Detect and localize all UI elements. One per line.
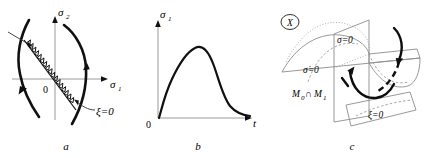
panel-a-x-axis-sub: 1 <box>118 85 122 93</box>
panel-c-right-sheet <box>369 49 420 87</box>
panel-c-manifold-label: M 0 ∩ M 1 <box>291 89 327 102</box>
panel-c-tangent-tick <box>342 78 348 86</box>
panel-a-letter: a <box>63 140 69 152</box>
panel-b-origin-label: 0 <box>146 119 151 130</box>
panel-b-horizontal-axis <box>158 115 252 121</box>
panel-c-x-symbol: X <box>286 18 294 28</box>
panel-a-y-axis-sub: 2 <box>66 13 70 21</box>
panel-c-manifold-diagram: X σ=0 σ̇=0 M 0 ∩ M 1 ξ=0 c <box>268 0 430 158</box>
panel-a-switching-label: ξ=0 <box>96 105 114 118</box>
panel-a-vertical-axis <box>52 16 58 120</box>
panel-c-manifold-m1: M <box>313 89 323 99</box>
panel-c-letter: c <box>350 140 355 152</box>
panel-a-leader-lower <box>74 100 95 110</box>
panel-a-x-axis-label: σ <box>110 78 116 90</box>
figure-container: σ 2 σ 1 0 ξ=0 a σ 1 t 0 b <box>0 0 430 158</box>
panel-b-y-axis-sub: 1 <box>168 15 172 23</box>
panel-a-switching-line <box>24 40 76 110</box>
panel-a-trajectory-left <box>18 20 39 117</box>
panel-c-xi-zero-label: ξ=0 <box>368 110 383 121</box>
panel-c-sigma-dot-zero-label: σ̇=0 <box>303 65 319 75</box>
panel-c-sigma-zero-label: σ=0 <box>337 35 353 45</box>
panel-c-manifold-m0: M <box>291 89 301 99</box>
panel-b-x-axis-label: t <box>253 117 257 129</box>
panel-b-y-axis-label: σ <box>160 8 166 20</box>
panel-c-left-sheet <box>282 22 369 82</box>
panel-b-vertical-axis <box>155 20 161 118</box>
panel-a-phase-portrait: σ 2 σ 1 0 ξ=0 a <box>0 0 140 158</box>
panel-a-trajectory-right <box>64 25 90 124</box>
panel-c-circled-x-marker: X <box>281 15 299 30</box>
panel-b-letter: b <box>195 140 201 152</box>
panel-b-response-curve <box>159 47 250 118</box>
panel-a-y-axis-label: σ <box>58 6 64 18</box>
panel-b-time-response: σ 1 t 0 b <box>140 0 268 158</box>
panel-a-origin-label: 0 <box>43 84 48 95</box>
panel-c-manifold-cap: ∩ <box>305 89 312 99</box>
panel-a-sliding-hatch <box>26 40 73 103</box>
panel-c-manifold-sub1: 1 <box>323 94 327 102</box>
